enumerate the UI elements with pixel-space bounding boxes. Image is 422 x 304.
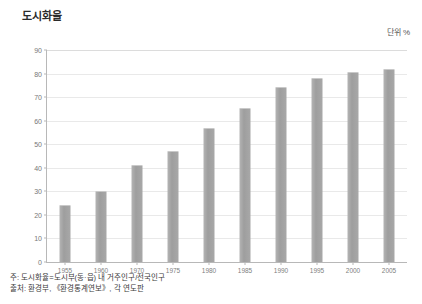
bar-group-1990: 1990 [263,50,299,262]
bar-1995 [312,78,323,262]
unit-label: 단위 % [387,26,410,37]
bar-1960 [96,191,107,262]
bar-1975 [168,151,179,262]
x-axis-tick-mark-1980 [209,262,210,265]
x-axis-tick-mark-1955 [65,262,66,265]
x-axis-tick-mark-1990 [281,262,282,265]
urbanization-rate-chart: 도시화율 단위 % 0102030405060708090 1955196019… [0,0,422,304]
x-axis-tick-mark-2000 [353,262,354,265]
bar-group-1960: 1960 [83,50,119,262]
bar-group-2005: 2005 [371,50,407,262]
bar-group-1975: 1975 [155,50,191,262]
bar-1980 [204,128,215,262]
x-axis-tick-mark-1995 [317,262,318,265]
y-axis-tick-label-10: 10 [34,235,42,242]
x-axis-tick-mark-1960 [101,262,102,265]
bar-group-2000: 2000 [335,50,371,262]
y-axis-tick-label-60: 60 [34,117,42,124]
bar-1970 [132,165,143,262]
y-axis-tick-label-30: 30 [34,188,42,195]
footnote-source: 출처: 환경부, 《환경통계연보》, 각 연도판 [10,283,410,294]
chart-title: 도시화율 [22,7,62,23]
y-axis-tick-label-90: 90 [34,47,42,54]
y-axis-tick-label-70: 70 [34,94,42,101]
bar-2000 [348,72,359,262]
bar-2005 [384,69,395,262]
bar-1955 [60,205,71,262]
plot-area: 0102030405060708090 19551960197019751980… [46,50,407,263]
footnotes: 주: 도시화율=도시부(동·읍) 내 거주인구/전국인구 출처: 환경부, 《환… [10,272,410,294]
x-axis-tick-mark-1985 [245,262,246,265]
bar-1990 [276,87,287,262]
bar-group-1980: 1980 [191,50,227,262]
bars-layer: 1955196019701975198019851990199520002005 [47,50,407,262]
x-axis-tick-mark-2005 [389,262,390,265]
bar-group-1995: 1995 [299,50,335,262]
bar-group-1985: 1985 [227,50,263,262]
y-axis-tick-label-0: 0 [38,259,42,266]
x-axis-tick-mark-1970 [137,262,138,265]
bar-1985 [240,108,251,262]
bar-group-1970: 1970 [119,50,155,262]
y-axis-tick-label-20: 20 [34,211,42,218]
y-axis-tick-label-40: 40 [34,164,42,171]
bar-group-1955: 1955 [47,50,83,262]
x-axis-tick-mark-1975 [173,262,174,265]
y-axis-tick-label-80: 80 [34,70,42,77]
y-axis-tick-label-50: 50 [34,141,42,148]
footnote-note: 주: 도시화율=도시부(동·읍) 내 거주인구/전국인구 [10,272,410,283]
